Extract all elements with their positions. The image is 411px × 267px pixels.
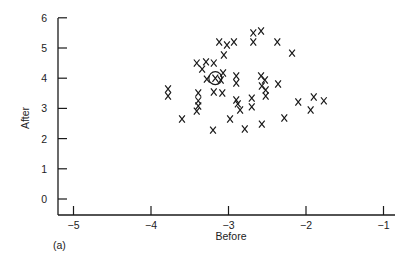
x-tick-label: −2 — [300, 219, 312, 231]
data-point — [250, 29, 256, 36]
data-point — [242, 125, 248, 132]
y-tick-label: 6 — [41, 12, 47, 24]
data-point — [250, 38, 256, 45]
scatter-chart: 0123456 −5−4−3−2−1 After Before (a) — [0, 0, 411, 267]
data-point — [249, 103, 255, 110]
data-point — [262, 76, 268, 83]
data-point — [203, 58, 209, 65]
data-point — [289, 50, 295, 57]
data-point — [212, 75, 218, 82]
data-point — [263, 86, 269, 93]
data-point — [211, 60, 217, 67]
x-tick-label: −4 — [145, 219, 157, 231]
y-ticks: 0123456 — [41, 12, 67, 205]
data-point — [308, 106, 314, 113]
data-point — [249, 95, 255, 102]
data-point — [281, 114, 287, 121]
data-point — [179, 115, 185, 122]
data-point — [211, 88, 217, 95]
x-ticks: −5−4−3−2−1 — [68, 206, 390, 231]
data-point — [275, 80, 281, 87]
data-point — [165, 92, 171, 99]
data-point — [194, 60, 200, 67]
y-tick-label: 1 — [41, 163, 47, 175]
data-point — [216, 38, 222, 45]
data-point — [165, 85, 171, 92]
data-point — [199, 66, 205, 73]
y-tick-label: 4 — [41, 72, 47, 84]
data-point — [259, 121, 265, 128]
data-point — [274, 38, 280, 45]
data-point — [321, 97, 327, 104]
x-tick-label: −5 — [68, 219, 80, 231]
data-point — [210, 127, 216, 134]
data-point — [227, 115, 233, 122]
y-tick-label: 2 — [41, 133, 47, 145]
data-point — [258, 27, 264, 34]
data-point — [221, 51, 227, 58]
x-axis-title: Before — [216, 230, 247, 242]
data-point — [195, 89, 201, 96]
y-tick-label: 0 — [41, 193, 47, 205]
data-point — [311, 93, 317, 100]
data-point — [219, 89, 225, 96]
data-point — [231, 38, 237, 45]
x-tick-label: −1 — [378, 219, 390, 231]
y-axis-title: After — [19, 106, 31, 129]
data-point — [263, 92, 269, 99]
data-point — [224, 41, 230, 48]
data-point — [295, 98, 301, 105]
data-point — [233, 79, 239, 86]
data-points — [165, 27, 327, 133]
y-tick-label: 5 — [41, 42, 47, 54]
y-tick-label: 3 — [41, 102, 47, 114]
panel-label: (a) — [53, 239, 66, 251]
data-point — [233, 72, 239, 79]
